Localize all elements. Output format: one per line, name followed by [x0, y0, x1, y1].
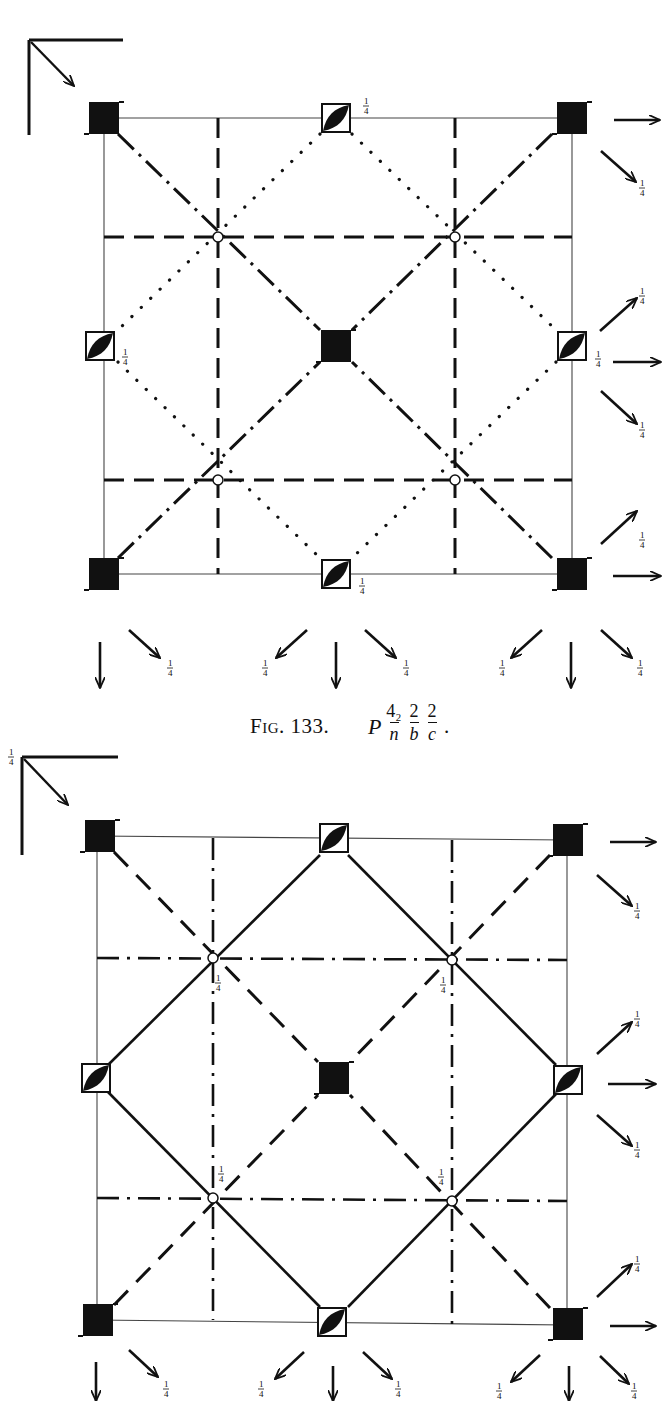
svg-text:1: 1	[364, 96, 369, 106]
svg-text:1: 1	[640, 530, 645, 540]
svg-text:4: 4	[635, 1264, 640, 1274]
diad-axis-icon	[318, 1308, 346, 1336]
figure-number: Fig. 133.	[250, 714, 329, 739]
svg-text:1: 1	[439, 1167, 444, 1177]
svg-text:1: 1	[640, 286, 645, 296]
svg-text:4: 4	[364, 106, 369, 116]
svg-text:1: 1	[9, 747, 14, 757]
svg-text:1: 1	[216, 973, 221, 983]
diad-axis-icon	[82, 1064, 110, 1092]
diad-axis-icon	[322, 560, 350, 588]
svg-text:1: 1	[638, 658, 643, 668]
svg-text:1: 1	[635, 1009, 640, 1019]
svg-text:1: 1	[635, 901, 640, 911]
svg-text:4: 4	[635, 911, 640, 921]
svg-text:4: 4	[638, 668, 643, 678]
svg-text:1: 1	[168, 658, 173, 668]
svg-text:4: 4	[640, 296, 645, 306]
svg-text:4: 4	[640, 540, 645, 550]
screw-axis-icon	[540, 1308, 594, 1340]
svg-text:1: 1	[632, 1381, 637, 1391]
svg-text:1: 1	[164, 1379, 169, 1389]
svg-text:4: 4	[497, 1391, 502, 1401]
figure-134-diagram: 14	[8, 747, 656, 1401]
symbol-part-2: 2 b	[406, 702, 422, 743]
svg-text:1: 1	[497, 1381, 502, 1391]
svg-text:4: 4	[635, 1019, 640, 1029]
svg-text:4: 4	[439, 1177, 444, 1187]
svg-text:1: 1	[500, 658, 505, 668]
caption-period: .	[444, 714, 449, 739]
svg-text:1: 1	[263, 658, 268, 668]
svg-text:4: 4	[360, 586, 365, 596]
svg-text:4: 4	[259, 1389, 264, 1399]
svg-text:1: 1	[396, 1379, 401, 1389]
svg-text:1: 1	[360, 576, 365, 586]
svg-text:4: 4	[404, 668, 409, 678]
svg-text:4: 4	[263, 668, 268, 678]
figure-133-diagram: 14 14 14 14 14 14 14 14 14 14 14 14 14	[29, 40, 661, 688]
svg-text:4: 4	[632, 1391, 637, 1401]
diad-axis-icon	[322, 104, 350, 132]
height-labels: 14 14 14 14 14 14 14 14 14 14 14 14 14	[122, 96, 645, 678]
svg-text:4: 4	[219, 1174, 224, 1184]
svg-text:4: 4	[640, 430, 645, 440]
svg-text:1: 1	[259, 1379, 264, 1389]
symbol-part-3: 2 c	[424, 702, 440, 743]
diad-axis-icon	[86, 332, 114, 360]
svg-text:4: 4	[441, 985, 446, 995]
svg-text:4: 4	[216, 983, 221, 993]
diad-axis-icon	[320, 824, 348, 852]
svg-text:4: 4	[168, 668, 173, 678]
screw-axis-icon	[308, 330, 362, 362]
figure-caption: Fig. 133. P 4₂ n 2 b 2 c .	[250, 700, 510, 760]
svg-text:1: 1	[404, 658, 409, 668]
svg-text:1: 1	[441, 975, 446, 985]
svg-text:4: 4	[123, 357, 128, 367]
diad-axis-icon	[554, 1066, 582, 1094]
svg-text:1: 1	[219, 1164, 224, 1174]
svg-text:4: 4	[500, 668, 505, 678]
space-group-lattice: P	[368, 714, 381, 740]
diad-axis-icon	[558, 332, 586, 360]
svg-text:1: 1	[635, 1140, 640, 1150]
svg-text:4: 4	[596, 359, 601, 369]
twofold-axis-arrows	[100, 120, 661, 688]
svg-text:4: 4	[635, 1150, 640, 1160]
svg-text:1: 1	[640, 178, 645, 188]
svg-text:1: 1	[123, 347, 128, 357]
svg-text:1: 1	[635, 1254, 640, 1264]
svg-text:4: 4	[640, 188, 645, 198]
svg-text:4: 4	[164, 1389, 169, 1399]
svg-text:1: 1	[596, 349, 601, 359]
svg-text:4: 4	[9, 757, 14, 767]
svg-text:4: 4	[396, 1389, 401, 1399]
screw-axis-icon	[306, 1062, 360, 1094]
symbol-part-1: 4₂ n	[386, 702, 402, 743]
svg-text:1: 1	[640, 420, 645, 430]
